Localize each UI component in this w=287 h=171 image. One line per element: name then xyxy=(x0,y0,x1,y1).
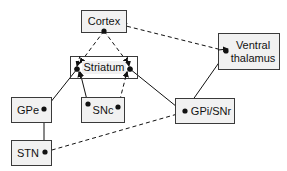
node-label: Cortex xyxy=(88,15,120,28)
node-label: Ventral thalamus xyxy=(227,39,279,65)
node-snc: SNc xyxy=(81,97,125,123)
node-gpi-snr: GPi/SNr xyxy=(175,98,235,124)
node-striatum: Striatum xyxy=(70,56,138,79)
node-label: GPi/SNr xyxy=(191,105,231,118)
node-label: GPe xyxy=(17,104,39,117)
node-label: SNc xyxy=(93,104,114,117)
node-label: Striatum xyxy=(82,61,127,74)
node-label: STN xyxy=(17,147,39,160)
node-gpe: GPe xyxy=(11,97,52,123)
node-stn: STN xyxy=(11,140,52,166)
node-cortex: Cortex xyxy=(81,10,127,33)
node-ventral-thalamus: Ventral thalamus xyxy=(218,33,280,70)
